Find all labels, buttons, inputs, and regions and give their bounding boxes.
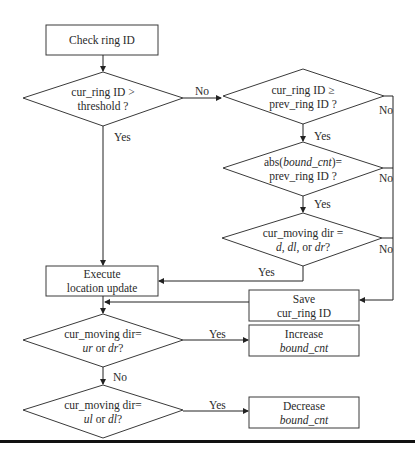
abs-line2: prev_ring ID ? — [264, 169, 342, 183]
threshold-label: cur_ring ID > threshold ? — [71, 85, 134, 113]
urdr-line2: ur or dr? — [64, 341, 142, 355]
qmark: ? — [325, 241, 330, 253]
save-label: Save cur_ring ID — [277, 292, 331, 320]
prev-line2: prev_ring ID ? — [269, 97, 337, 111]
decrease-label: Decrease bound_cnt — [280, 399, 329, 427]
dir-dl2: dl — [108, 413, 117, 425]
urdr-line1: cur_moving dir= — [64, 327, 142, 341]
edge-label-prev-no: No — [379, 104, 393, 116]
edge-label-abs-yes: Yes — [314, 198, 331, 210]
abs-line1: abs(bound_cnt)= — [264, 155, 342, 169]
decrease-line1: Decrease — [280, 399, 329, 413]
save-line2: cur_ring ID — [277, 306, 331, 320]
edge-label-abs-no: No — [379, 172, 393, 184]
check-text: Check ring ID — [69, 34, 135, 46]
bottom-rule — [0, 440, 415, 443]
edge-label-threshold-no: No — [195, 85, 209, 97]
dir1-line1: cur_moving dir = — [263, 226, 344, 240]
decrease-line2: bound_cnt — [280, 413, 329, 427]
save-line1: Save — [277, 292, 331, 306]
dir-ul: ul — [84, 413, 93, 425]
threshold-line2: threshold ? — [71, 99, 134, 113]
q3: ? — [117, 413, 122, 425]
increase-label: Increase bound_cnt — [280, 327, 329, 355]
increase-line1: Increase — [280, 327, 329, 341]
execute-line1: Execute — [67, 267, 138, 281]
dir1-line2: d, dl, or dr? — [263, 240, 344, 254]
dir-dr: dr — [315, 241, 325, 253]
flowchart-canvas — [0, 0, 415, 458]
check-ring-id-label: Check ring ID — [69, 33, 135, 47]
threshold-line1: cur_ring ID > — [71, 85, 134, 99]
dir-dr2: dr — [108, 342, 118, 354]
edge-label-dir1-yes: Yes — [258, 266, 275, 278]
uldl-label: cur_moving dir= ul or dl? — [64, 398, 142, 426]
uldl-line2: ul or dl? — [64, 412, 142, 426]
sep2: , or — [296, 241, 314, 253]
abs-bound-label: abs(bound_cnt)= prev_ring ID ? — [264, 155, 342, 183]
abs-post: )= — [332, 156, 342, 168]
edge-label-urdr-yes: Yes — [209, 328, 226, 340]
edge-label-dir1-no: No — [379, 243, 393, 255]
edge-label-threshold-yes: Yes — [114, 131, 131, 143]
dir1-label: cur_moving dir = d, dl, or dr? — [263, 226, 344, 254]
dir-dl: dl — [287, 241, 296, 253]
edge-label-urdr-no: No — [113, 371, 127, 383]
edge-label-uldl-yes: Yes — [209, 399, 226, 411]
abs-var: bound_cnt — [283, 156, 332, 168]
urdr-label: cur_moving dir= ur or dr? — [64, 327, 142, 355]
prev-ring-label: cur_ring ID ≥ prev_ring ID ? — [269, 83, 337, 111]
dir-ur: ur — [83, 342, 93, 354]
prev-line1: cur_ring ID ≥ — [269, 83, 337, 97]
execute-label: Execute location update — [67, 267, 138, 295]
or1: or — [93, 342, 108, 354]
execute-line2: location update — [67, 281, 138, 295]
edge-label-prev-yes: Yes — [314, 130, 331, 142]
uldl-line1: cur_moving dir= — [64, 398, 142, 412]
or2: or — [93, 413, 108, 425]
increase-line2: bound_cnt — [280, 341, 329, 355]
q2: ? — [118, 342, 123, 354]
abs-pre: abs( — [264, 156, 283, 168]
